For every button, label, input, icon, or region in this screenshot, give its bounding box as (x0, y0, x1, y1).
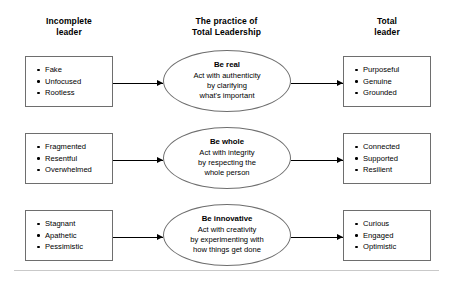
arrow-shaft (291, 160, 343, 161)
total-leader-list: Purposeful Genuine Grounded (344, 57, 430, 99)
practice-title: Be whole (210, 137, 244, 147)
arrow-left-to-center (113, 80, 163, 87)
list-item: Purposeful (355, 64, 430, 76)
arrow-center-to-right (291, 157, 343, 164)
total-leader-list: Connected Supported Resilient (344, 134, 430, 176)
arrow-shaft (291, 83, 343, 84)
arrow-shaft (113, 83, 163, 84)
total-leader-list: Curious Engaged Optimistic (344, 211, 430, 253)
arrow-shaft (113, 237, 163, 238)
practice-body: Act with authenticity by clarifying what… (193, 71, 260, 102)
practice-body: Act with integrity by respecting the who… (198, 148, 256, 179)
column-header-incomplete-leader: Incomplete leader (25, 16, 113, 38)
incomplete-leader-box: Stagnant Apathetic Pessimistic (25, 210, 113, 261)
column-header-practice-of-total-leadership: The practice of Total Leadership (155, 16, 298, 38)
list-item: Apathetic (37, 230, 112, 242)
list-item: Overwhelmed (37, 164, 112, 176)
arrow-shaft (113, 160, 163, 161)
incomplete-leader-box: Fake Unfocused Rootless (25, 56, 113, 107)
list-item: Rootless (37, 87, 112, 99)
practice-ellipse: Be innovative Act with creativity by exp… (163, 204, 291, 266)
total-leader-box: Purposeful Genuine Grounded (343, 56, 431, 107)
incomplete-leader-list: Fake Unfocused Rootless (26, 57, 112, 99)
diagram-row: Fake Unfocused Rootless Be real Act with… (0, 50, 453, 112)
diagram-row: Fragmented Resentful Overwhelmed Be whol… (0, 127, 453, 189)
arrow-left-to-center (113, 234, 163, 241)
list-item: Pessimistic (37, 241, 112, 253)
list-item: Fake (37, 64, 112, 76)
list-item: Unfocused (37, 76, 112, 88)
list-item: Optimistic (355, 241, 430, 253)
arrow-shaft (291, 237, 343, 238)
arrow-center-to-right (291, 80, 343, 87)
arrow-center-to-right (291, 234, 343, 241)
list-item: Fragmented (37, 141, 112, 153)
arrow-left-to-center (113, 157, 163, 164)
total-leader-box: Curious Engaged Optimistic (343, 210, 431, 261)
incomplete-leader-box: Fragmented Resentful Overwhelmed (25, 133, 113, 184)
list-item: Resentful (37, 153, 112, 165)
list-item: Stagnant (37, 218, 112, 230)
incomplete-leader-list: Stagnant Apathetic Pessimistic (26, 211, 112, 253)
practice-title: Be real (214, 60, 240, 70)
diagram-row: Stagnant Apathetic Pessimistic Be innova… (0, 204, 453, 266)
practice-ellipse: Be whole Act with integrity by respectin… (163, 127, 291, 189)
total-leadership-diagram: Incomplete leader The practice of Total … (0, 0, 453, 284)
total-leader-box: Connected Supported Resilient (343, 133, 431, 184)
incomplete-leader-list: Fragmented Resentful Overwhelmed (26, 134, 112, 176)
practice-body: Act with creativity by experimenting wit… (190, 225, 263, 256)
list-item: Connected (355, 141, 430, 153)
list-item: Resilient (355, 164, 430, 176)
list-item: Genuine (355, 76, 430, 88)
list-item: Supported (355, 153, 430, 165)
list-item: Grounded (355, 87, 430, 99)
list-item: Engaged (355, 230, 430, 242)
practice-title: Be innovative (202, 214, 253, 224)
practice-ellipse: Be real Act with authenticity by clarify… (163, 50, 291, 112)
list-item: Curious (355, 218, 430, 230)
column-header-total-leader: Total leader (343, 16, 431, 38)
bottom-divider (14, 270, 439, 271)
